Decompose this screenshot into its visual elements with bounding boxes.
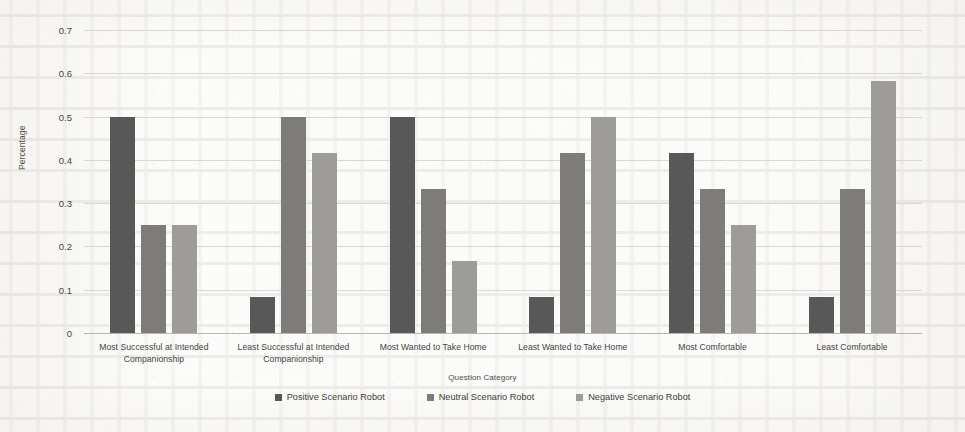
bar: [250, 297, 275, 333]
y-axis-tick-label: 0.1: [26, 284, 72, 295]
bar-group: [363, 30, 503, 333]
bar: [281, 117, 306, 333]
bar: [591, 117, 616, 333]
y-axis-tick-label: 0.6: [26, 68, 72, 79]
y-axis-tick-label: 0.3: [26, 198, 72, 209]
bar: [452, 261, 477, 333]
bar-group: [782, 30, 922, 333]
legend-label: Positive Scenario Robot: [287, 392, 385, 402]
y-axis-tick-label: 0: [26, 328, 72, 339]
category-label-line: Least Wanted to Take Home: [493, 342, 653, 354]
bar: [809, 297, 834, 333]
legend-swatch-icon: [576, 394, 583, 401]
legend-swatch-icon: [427, 394, 434, 401]
x-axis-category-label: Least Successful at IntendedCompanionshi…: [214, 342, 374, 365]
y-axis-tick-label: 0.2: [26, 241, 72, 252]
category-label-line: Most Comfortable: [633, 342, 793, 354]
x-axis-category-label: Least Wanted to Take Home: [493, 342, 653, 354]
y-axis-tick-label: 0.7: [26, 25, 72, 36]
y-axis-tick-label: 0.5: [26, 111, 72, 122]
bar-group: [643, 30, 783, 333]
bar: [110, 117, 135, 333]
bar: [312, 153, 337, 334]
bar-group: [84, 30, 224, 333]
legend-label: Negative Scenario Robot: [588, 392, 690, 402]
x-axis-category-label: Least Comfortable: [772, 342, 932, 354]
plot-area: [84, 30, 922, 333]
bar: [141, 225, 166, 333]
bar: [669, 153, 694, 334]
category-label-line: Most Wanted to Take Home: [353, 342, 513, 354]
x-axis-baseline: [84, 333, 922, 334]
bar: [390, 117, 415, 333]
y-axis-tick-labels: 0.70.60.50.40.30.20.10: [22, 0, 72, 432]
bar-chart: Percentage 0.70.60.50.40.30.20.10 Most S…: [0, 0, 965, 432]
bar: [560, 153, 585, 334]
chart-page: Percentage 0.70.60.50.40.30.20.10 Most S…: [0, 0, 965, 432]
x-axis-category-label: Most Comfortable: [633, 342, 793, 354]
bar: [731, 225, 756, 333]
bar-group: [503, 30, 643, 333]
category-label-line: Least Comfortable: [772, 342, 932, 354]
category-label-line: Most Successful at Intended: [74, 342, 234, 354]
category-label-line: Companionship: [74, 354, 234, 366]
legend-item: Negative Scenario Robot: [576, 392, 690, 402]
y-axis-tick-label: 0.4: [26, 154, 72, 165]
bar: [871, 81, 896, 333]
bar: [172, 225, 197, 333]
legend-item: Neutral Scenario Robot: [427, 392, 535, 402]
legend-label: Neutral Scenario Robot: [439, 392, 535, 402]
x-axis-category-label: Most Successful at IntendedCompanionship: [74, 342, 234, 365]
bar: [700, 189, 725, 333]
legend-item: Positive Scenario Robot: [275, 392, 385, 402]
chart-legend: Positive Scenario RobotNeutral Scenario …: [0, 392, 965, 402]
bar-group: [224, 30, 364, 333]
bar: [529, 297, 554, 333]
x-axis-title: Question Category: [0, 373, 965, 382]
x-axis-category-label: Most Wanted to Take Home: [353, 342, 513, 354]
bar: [840, 189, 865, 333]
bar: [421, 189, 446, 333]
category-label-line: Least Successful at Intended: [214, 342, 374, 354]
category-label-line: Companionship: [214, 354, 374, 366]
legend-swatch-icon: [275, 394, 282, 401]
